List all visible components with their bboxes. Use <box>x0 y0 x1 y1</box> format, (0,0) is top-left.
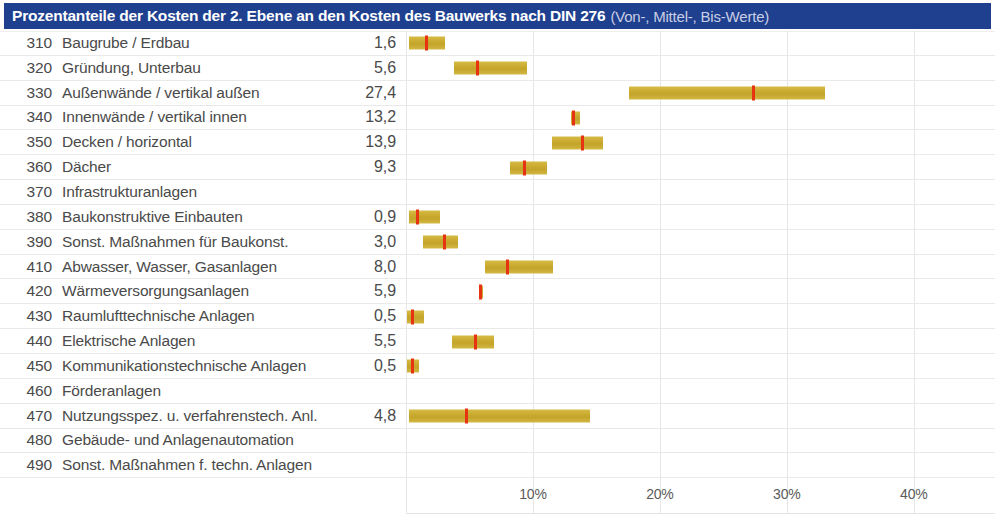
row-label: Gründung, Unterbau <box>62 59 201 77</box>
chart-container: Prozentanteile der Kosten der 2. Ebene a… <box>0 0 995 514</box>
row-code: 420 <box>10 282 52 300</box>
mean-marker <box>465 409 468 424</box>
row-label: Elektrische Anlagen <box>62 332 195 350</box>
row-code: 480 <box>10 431 52 449</box>
row-value: 13,2 <box>300 108 396 126</box>
x-tick-label: 30% <box>773 486 800 502</box>
range-bar <box>485 261 554 274</box>
range-bar <box>629 87 824 100</box>
mean-marker <box>411 309 414 324</box>
row-label: Baukonstruktive Einbauten <box>62 208 243 226</box>
mean-marker <box>443 235 446 250</box>
mean-marker <box>479 284 482 299</box>
bar-row <box>406 130 995 155</box>
bar-row <box>406 155 995 180</box>
row-code: 350 <box>10 133 52 151</box>
mean-marker <box>523 160 526 175</box>
mean-marker <box>752 86 755 101</box>
bar-row <box>406 31 995 56</box>
row-code: 490 <box>10 456 52 474</box>
row-code: 440 <box>10 332 52 350</box>
bar-row <box>406 81 995 106</box>
bar-row <box>406 354 995 379</box>
mean-marker <box>572 110 575 125</box>
row-value: 0,5 <box>300 307 396 325</box>
bar-row <box>406 453 995 478</box>
row-code: 370 <box>10 183 52 201</box>
row-label: Sonst. Maßnahmen f. techn. Anlagen <box>62 456 312 474</box>
row-code: 380 <box>10 208 52 226</box>
row-code: 460 <box>10 382 52 400</box>
range-bar <box>452 335 494 348</box>
x-tick-label: 40% <box>900 486 927 502</box>
bar-row <box>406 180 995 205</box>
row-code: 320 <box>10 59 52 77</box>
bar-row <box>406 230 995 255</box>
row-label: Decken / horizontal <box>62 133 192 151</box>
x-axis: 10%20%30%40% <box>406 486 995 508</box>
bar-row <box>406 255 995 280</box>
row-code: 360 <box>10 158 52 176</box>
row-value: 0,9 <box>300 208 396 226</box>
row-value: 0,5 <box>300 357 396 375</box>
row-value: 27,4 <box>300 84 396 102</box>
bar-row <box>406 304 995 329</box>
row-label: Kommunikationstechnische Anlagen <box>62 357 306 375</box>
row-code: 410 <box>10 258 52 276</box>
row-value: 4,8 <box>300 407 396 425</box>
row-label: Dächer <box>62 158 111 176</box>
page-title: Prozentanteile der Kosten der 2. Ebene a… <box>12 7 605 25</box>
row-label: Sonst. Maßnahmen für Baukonst. <box>62 233 288 251</box>
row-value: 5,9 <box>300 282 396 300</box>
row-value: 13,9 <box>300 133 396 151</box>
row-code: 450 <box>10 357 52 375</box>
bar-row <box>406 429 995 454</box>
mean-marker <box>474 334 477 349</box>
row-label: Gebäude- und Anlagenautomation <box>62 431 294 449</box>
mean-marker <box>581 135 584 150</box>
bar-row <box>406 379 995 404</box>
bar-row <box>406 205 995 230</box>
row-label: Baugrube / Erdbau <box>62 34 190 52</box>
row-label: Abwasser, Wasser, Gasanlagen <box>62 258 277 276</box>
bar-row <box>406 56 995 81</box>
bar-row <box>406 329 995 354</box>
row-code: 390 <box>10 233 52 251</box>
range-bar <box>407 310 424 323</box>
row-code: 340 <box>10 108 52 126</box>
bar-layer <box>406 31 995 514</box>
row-label: Wärmeversorgungsanlagen <box>62 282 249 300</box>
x-tick-label: 20% <box>646 486 673 502</box>
bar-row <box>406 106 995 131</box>
chart-title-bar: Prozentanteile der Kosten der 2. Ebene a… <box>4 3 991 29</box>
mean-marker <box>476 61 479 76</box>
bar-row <box>406 404 995 429</box>
mean-marker <box>425 36 428 51</box>
range-bar <box>552 136 603 149</box>
row-value: 5,5 <box>300 332 396 350</box>
row-value: 8,0 <box>300 258 396 276</box>
row-value: 3,0 <box>300 233 396 251</box>
range-bar <box>409 410 591 423</box>
row-label: Außenwände / vertikal außen <box>62 84 260 102</box>
row-code: 470 <box>10 407 52 425</box>
row-value: 9,3 <box>300 158 396 176</box>
row-code: 310 <box>10 34 52 52</box>
range-bar <box>510 161 547 174</box>
row-code: 330 <box>10 84 52 102</box>
row-label: Raumlufttechnische Anlagen <box>62 307 255 325</box>
mean-marker <box>506 260 509 275</box>
row-value: 5,6 <box>300 59 396 77</box>
page-subtitle: (Von-, Mittel-, Bis-Werte) <box>610 8 769 25</box>
row-value: 1,6 <box>300 34 396 52</box>
row-label: Nutzungsspez. u. verfahrenstech. Anl. <box>62 407 318 425</box>
row-label: Infrastrukturanlagen <box>62 183 197 201</box>
range-bar <box>454 62 526 75</box>
row-label: Innenwände / vertikal innen <box>62 108 247 126</box>
mean-marker <box>416 210 419 225</box>
row-code: 430 <box>10 307 52 325</box>
bar-row <box>406 279 995 304</box>
range-bar <box>409 211 441 224</box>
row-label: Förderanlagen <box>62 382 161 400</box>
mean-marker <box>411 359 414 374</box>
